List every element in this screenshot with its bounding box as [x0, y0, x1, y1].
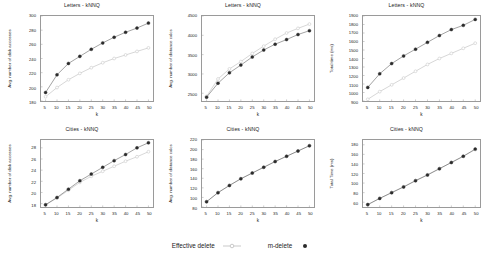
data-point [78, 179, 81, 182]
ytick-label: 1300 [322, 65, 358, 70]
ytick-label: 1900 [322, 13, 358, 18]
legend-marker-circle-filled-dark [299, 242, 319, 250]
data-point [124, 153, 127, 156]
data-point [474, 42, 477, 45]
xtick-label: 30 [425, 211, 430, 216]
xtick-label: 10 [54, 105, 59, 110]
ytick-label: 260 [0, 42, 36, 47]
plot-panel-cities-distance-calcs: Cities - kNNQ801001201401601802002205101… [161, 126, 325, 230]
series-line-effective-delete [368, 43, 475, 99]
ytick-label: 100 [322, 181, 358, 186]
xtick-label: 5 [204, 105, 206, 110]
data-point [296, 33, 299, 36]
ytick-label: 180 [322, 141, 358, 146]
data-point [135, 146, 138, 149]
xtick-label: 10 [215, 105, 220, 110]
xtick-label: 5 [43, 105, 45, 110]
plot-canvas-letters-disk-accesses [41, 16, 153, 101]
ytick-label: 60 [322, 201, 358, 206]
plot-canvas-cities-distance-calcs [202, 140, 314, 207]
ytick-label: 200 [0, 85, 36, 90]
plot-panel-letters-distance-calcs: Letters - kNNQ25003000350040004500510152… [161, 2, 325, 124]
xtick-label: 15 [66, 211, 71, 216]
data-point [274, 160, 277, 163]
ytick-label: 200 [161, 146, 197, 151]
data-point [274, 38, 277, 41]
data-point [366, 98, 369, 101]
xtick-label: 10 [54, 211, 59, 216]
data-point [366, 203, 369, 206]
figure-root: Letters - kNNQ18020022024026028030051015… [0, 0, 491, 257]
xtick-label: 40 [285, 211, 290, 216]
xtick-label: 45 [135, 211, 140, 216]
xtick-label: 35 [112, 105, 117, 110]
xtick-label: 20 [401, 211, 406, 216]
plot-canvas-cities-disk-accesses [41, 140, 153, 207]
xtick-label: 45 [296, 105, 301, 110]
data-point [216, 191, 219, 194]
plot-title-cities-disk-accesses: Cities - kNNQ [0, 126, 164, 132]
ytick-label: 1400 [322, 56, 358, 61]
ytick-label: 24 [0, 168, 36, 173]
xtick-label: 35 [273, 105, 278, 110]
ytick-label: 180 [0, 100, 36, 105]
data-point [55, 196, 58, 199]
ytick-label: 160 [322, 151, 358, 156]
data-point [426, 41, 429, 44]
xtick-label: 15 [389, 211, 394, 216]
legend-entry-m-delete: m-delete [268, 242, 320, 250]
plot-axes-letters-disk-accesses [40, 15, 154, 102]
series-line-m-delete [207, 146, 310, 202]
xtick-label: 5 [43, 211, 45, 216]
xaxis-label-letters-distance-calcs: k [201, 112, 315, 117]
data-point [285, 155, 288, 158]
xtick-label: 15 [227, 105, 232, 110]
ytick-label: 1800 [322, 21, 358, 26]
yaxis-label-letters-distance-calcs: Avg. number of distance calcs [168, 15, 173, 102]
xtick-label: 30 [261, 211, 266, 216]
data-point [308, 23, 311, 26]
yaxis-label-letters-total-time: Total time (ms) [329, 15, 334, 102]
xtick-label: 45 [462, 105, 467, 110]
ytick-label: 220 [161, 137, 197, 142]
plot-axes-letters-total-time [362, 15, 481, 102]
plot-panel-cities-disk-accesses: Cities - kNNQ182022242628510152025303540… [0, 126, 164, 230]
xtick-label: 40 [124, 211, 129, 216]
xtick-label: 35 [112, 211, 117, 216]
ytick-label: 3000 [161, 72, 197, 77]
data-point [56, 86, 59, 89]
ytick-label: 3500 [161, 52, 197, 57]
series-line-m-delete [368, 149, 475, 205]
xtick-label: 45 [462, 211, 467, 216]
series-line-effective-delete [207, 146, 310, 202]
plot-title-letters-disk-accesses: Letters - kNNQ [0, 2, 164, 8]
data-point [147, 22, 150, 25]
data-point [147, 141, 150, 144]
plot-canvas-cities-total-time [363, 140, 480, 207]
ytick-label: 280 [0, 27, 36, 32]
xtick-label: 45 [135, 105, 140, 110]
plot-axes-cities-distance-calcs [201, 139, 315, 208]
yaxis-label-cities-distance-calcs: Avg. number of distance calcs [168, 139, 173, 208]
xaxis-label-cities-distance-calcs: k [201, 218, 315, 223]
xtick-label: 15 [66, 105, 71, 110]
data-point [308, 144, 311, 147]
plot-axes-cities-disk-accesses [40, 139, 154, 208]
data-point [113, 159, 116, 162]
ytick-label: 240 [0, 56, 36, 61]
xtick-label: 20 [77, 211, 82, 216]
legend-label: Effective delete [172, 243, 215, 249]
xtick-label: 40 [450, 211, 455, 216]
data-point [113, 57, 116, 60]
plot-panel-letters-total-time: Letters - kNNQ90010001100120013001400150… [322, 2, 491, 124]
data-point [135, 27, 138, 30]
legend-label: m-delete [268, 243, 293, 249]
data-point [414, 179, 417, 182]
data-point [251, 172, 254, 175]
ytick-label: 160 [161, 166, 197, 171]
series-line-m-delete [368, 19, 475, 87]
yaxis-label-cities-disk-accesses: Avg. number of disk accesses [7, 139, 12, 208]
data-point [67, 188, 70, 191]
plot-title-cities-distance-calcs: Cities - kNNQ [161, 126, 325, 132]
yaxis-label-cities-total-time: Total Time (ms) [329, 139, 334, 208]
